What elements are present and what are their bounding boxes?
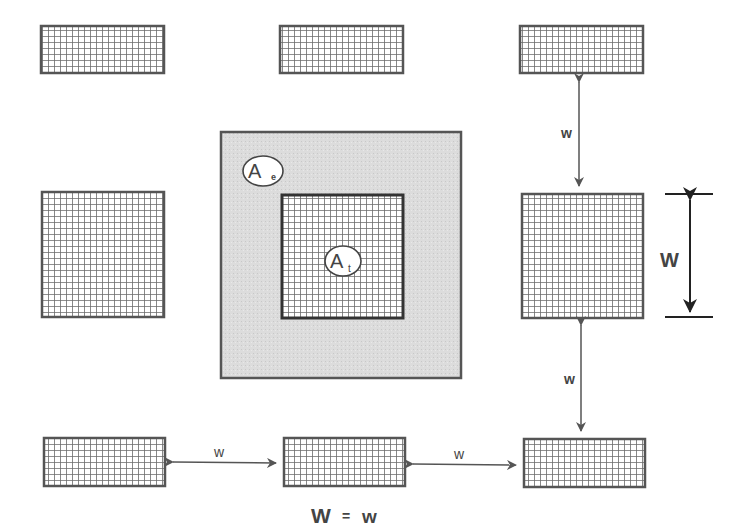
svg-text:W: W — [660, 249, 679, 271]
spacing-arrow-bottom-middle: w — [413, 446, 516, 465]
spacing-arrow-bottom-left: w — [173, 444, 276, 463]
tile-bottom-right — [524, 439, 645, 487]
tile-middle-left — [42, 192, 164, 317]
tile-bottom-middle — [284, 438, 405, 486]
tile-width-dimension: W — [660, 194, 713, 317]
effective-area-label: A e — [243, 156, 283, 186]
spacing-arrow-top-right: w — [560, 82, 579, 186]
tile-top-left — [41, 26, 164, 73]
svg-text:A: A — [248, 160, 262, 182]
tile-middle-right — [522, 194, 643, 318]
svg-text:t: t — [348, 263, 351, 274]
tile-area-label: A t — [325, 246, 361, 276]
svg-text:W: W — [311, 504, 331, 527]
tile-bottom-left — [44, 438, 165, 486]
svg-text:w: w — [361, 506, 377, 527]
svg-text:=: = — [342, 508, 350, 524]
spacing-arrow-bottom-right: w — [563, 325, 581, 431]
tile-top-right — [520, 26, 643, 73]
svg-text:w: w — [453, 446, 465, 462]
svg-text:w: w — [213, 444, 225, 460]
equation: W = w — [311, 504, 377, 527]
svg-text:w: w — [563, 371, 575, 387]
tile-spacing-diagram: A e A t w w w w W W = w — [0, 0, 748, 532]
svg-text:w: w — [560, 125, 572, 141]
tile-top-middle — [280, 26, 403, 73]
svg-text:e: e — [271, 172, 276, 182]
svg-text:A: A — [330, 250, 344, 272]
